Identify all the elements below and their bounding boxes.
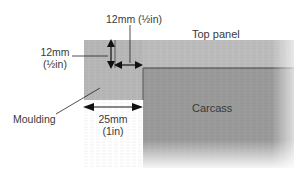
diagram-graphic xyxy=(0,0,305,171)
bottom-dimension-label-in: (1in) xyxy=(96,125,130,137)
top-dimension-label: 12mm (½in) xyxy=(106,13,162,25)
left-dimension-label-in: (½in) xyxy=(40,58,70,70)
diagram-canvas: 12mm (½in) 12mm (½in) Top panel Carcass … xyxy=(0,0,305,171)
top-panel-label: Top panel xyxy=(192,28,240,40)
left-dimension-label-mm: 12mm xyxy=(40,46,70,58)
bottom-dimension-label-mm: 25mm xyxy=(96,113,130,125)
moulding-label: Moulding xyxy=(13,113,56,125)
carcass-label: Carcass xyxy=(192,102,232,114)
